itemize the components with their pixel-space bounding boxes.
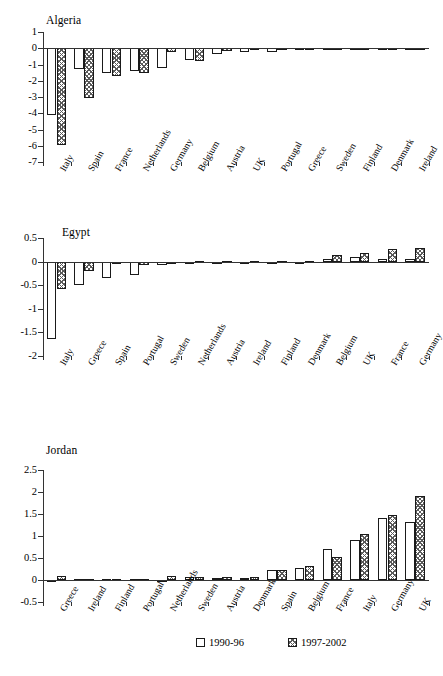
y-axis-tick-label: -2 — [28, 351, 37, 362]
y-axis-tick — [38, 146, 43, 147]
bar-group — [98, 32, 126, 162]
x-axis-tick — [264, 602, 265, 606]
y-axis-tick-label: 0 — [32, 575, 37, 586]
x-axis-tick — [401, 602, 402, 606]
bar — [388, 249, 397, 262]
y-axis-tick-label: 1.5 — [24, 509, 37, 520]
bar-group — [401, 238, 429, 356]
bar-group — [374, 238, 402, 356]
y-axis-tick — [38, 130, 43, 131]
x-axis-tick — [291, 162, 292, 166]
bar-group — [43, 238, 71, 356]
x-axis-tick — [43, 356, 44, 360]
bar — [102, 48, 111, 73]
chart-legend: 1990-961997-2002 — [196, 637, 347, 648]
x-axis-tick — [319, 602, 320, 606]
bar — [415, 496, 424, 580]
y-axis-tick-label: -1 — [28, 304, 37, 315]
y-axis-tick — [38, 492, 43, 493]
x-axis-tick — [236, 602, 237, 606]
legend-swatch-1990-96-icon — [196, 638, 205, 647]
y-axis-tick — [38, 32, 43, 33]
y-axis-tick-label: -2 — [28, 76, 37, 87]
y-axis-tick — [38, 113, 43, 114]
bar-group — [71, 32, 99, 162]
y-axis-tick-label: -7 — [28, 157, 37, 168]
y-axis-tick — [38, 332, 43, 333]
x-axis-tick — [346, 602, 347, 606]
y-axis-tick-label: 0.5 — [24, 233, 37, 244]
x-axis-tick — [71, 356, 72, 360]
bar-group — [71, 238, 99, 356]
legend-swatch-1997-2002-icon — [288, 638, 297, 647]
figure-page: Algeria 10-1-2-3-4-5-6-7ItalySpainFrance… — [0, 0, 443, 676]
y-axis-tick — [38, 97, 43, 98]
y-axis-tick-label: -4 — [28, 108, 37, 119]
x-axis-tick — [208, 356, 209, 360]
y-axis-tick — [38, 470, 43, 471]
x-axis-tick — [236, 162, 237, 166]
x-axis-tick — [291, 602, 292, 606]
y-axis-tick-label: 2.5 — [24, 465, 37, 476]
bar-group — [346, 470, 374, 602]
y-axis-tick-label: -0.5 — [20, 280, 37, 291]
y-axis-tick-label: 0 — [32, 43, 37, 54]
bar — [130, 48, 139, 70]
x-axis-tick — [98, 602, 99, 606]
bar-group — [98, 238, 126, 356]
x-axis-tick — [126, 162, 127, 166]
y-axis-tick-label: 1 — [32, 27, 37, 38]
y-axis-tick — [38, 285, 43, 286]
bar — [360, 253, 369, 261]
x-axis-tick — [98, 356, 99, 360]
x-axis-tick — [319, 162, 320, 166]
bar-group — [264, 32, 292, 162]
x-axis-tick — [401, 356, 402, 360]
bar — [102, 262, 111, 279]
bar — [130, 262, 139, 276]
zero-baseline — [43, 262, 429, 263]
bar — [57, 48, 66, 145]
x-axis-tick — [71, 602, 72, 606]
bar — [378, 518, 387, 580]
bar — [139, 48, 148, 73]
x-axis-tick — [346, 162, 347, 166]
y-axis-tick-label: 0 — [32, 256, 37, 267]
bar — [360, 534, 369, 580]
x-axis-tick — [208, 602, 209, 606]
legend-item: 1997-2002 — [288, 637, 347, 648]
x-axis-tick — [429, 162, 430, 166]
bar-group — [43, 470, 71, 602]
x-axis-tick — [153, 602, 154, 606]
plot-area-algeria: 10-1-2-3-4-5-6-7ItalySpainFranceNetherla… — [43, 32, 429, 162]
y-axis-tick — [38, 536, 43, 537]
x-axis-tick — [126, 602, 127, 606]
y-axis-tick — [38, 514, 43, 515]
y-axis-tick — [38, 65, 43, 66]
x-axis-tick — [43, 162, 44, 166]
zero-baseline — [43, 580, 429, 581]
bar — [323, 549, 332, 580]
y-axis-tick — [38, 309, 43, 310]
legend-item: 1990-96 — [196, 637, 244, 648]
y-axis-tick-label: -6 — [28, 141, 37, 152]
y-axis-tick — [38, 81, 43, 82]
x-axis-tick — [98, 162, 99, 166]
bar — [84, 48, 93, 98]
x-axis-tick — [236, 356, 237, 360]
bar-group — [236, 32, 264, 162]
y-axis-tick — [38, 238, 43, 239]
chart-title-jordan: Jordan — [46, 444, 77, 456]
bar-group — [126, 32, 154, 162]
x-axis-tick — [374, 356, 375, 360]
x-axis-tick — [264, 356, 265, 360]
bar — [47, 262, 56, 339]
chart-title-algeria: Algeria — [46, 14, 81, 26]
bar — [415, 248, 424, 262]
bar — [388, 515, 397, 580]
chart-panel-algeria: Algeria 10-1-2-3-4-5-6-7ItalySpainFrance… — [0, 14, 443, 226]
bar-group — [374, 470, 402, 602]
x-axis-tick — [346, 356, 347, 360]
plot-area-egypt: 0.50-0.5-1-1.5-2ItalyGreeceSpainPortugal… — [43, 238, 429, 356]
x-axis-tick — [374, 162, 375, 166]
